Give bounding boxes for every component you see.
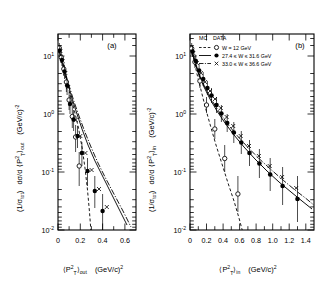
- panel-a: (a): [0, 0, 168, 299]
- legend-marker-open-circle: [214, 45, 218, 49]
- legend-marker-filled-circle: [214, 53, 218, 57]
- panel-a-label: (a): [107, 41, 117, 50]
- panel-a-ylabel: (1/σtot) dσ/d ⟨P2T⟩out (GeV/c)-2: [14, 104, 26, 212]
- svg-text:⟨P2T⟩out (GeV/c)2: ⟨P2T⟩out (GeV/c)2: [63, 264, 124, 276]
- legend-header-data: DATA: [213, 35, 227, 41]
- panel-b-yticklabels: 101 100 10-1 10-2: [173, 51, 186, 235]
- ytick-1em1: 10-1: [41, 167, 54, 177]
- figure-root: (a): [0, 0, 336, 299]
- svg-text:(1/σtot) dσ/d: (1/σtot) dσ/d ⟨P2T⟩out (GeV/c)-2: [14, 104, 26, 212]
- xtick-b-14: 1.4: [301, 236, 311, 245]
- xtick-a-06: 0.6: [120, 236, 130, 245]
- panel-b-xticklabels: 0 0.2 0.4 0.6 0.8 1.0 1.2 1.4: [188, 236, 311, 245]
- xtick-a-04: 0.4: [98, 236, 108, 245]
- ytick-b-1em2: 10-2: [173, 225, 186, 235]
- xtick-b-10: 1.0: [268, 236, 278, 245]
- panel-b-svg: (b) MC DATA W = 12 GeV 27.4 ≤ W ≤ 31.6 G…: [168, 0, 336, 299]
- panel-a-xlabel: ⟨P2T⟩out (GeV/c)2: [63, 264, 124, 276]
- legend-label-w12: W = 12 GeV: [222, 45, 251, 51]
- legend-label-w274: 27.4 ≤ W ≤ 31.6 GeV: [222, 53, 272, 59]
- panel-b-label: (b): [295, 41, 305, 50]
- ytick-1e0: 100: [43, 109, 54, 119]
- ytick-b-1em1: 10-1: [173, 167, 186, 177]
- panel-a-frame: [58, 34, 136, 230]
- legend-label-w330: 33.0 ≤ W ≤ 36.6 GeV: [222, 61, 272, 67]
- panel-a-svg: (a): [0, 0, 168, 299]
- ytick-1e1: 101: [43, 51, 54, 61]
- ytick-b-1e1: 101: [175, 51, 186, 61]
- xtick-b-02: 0.2: [202, 236, 212, 245]
- ytick-b-1e0: 100: [175, 109, 186, 119]
- xtick-b-04: 0.4: [218, 236, 228, 245]
- xtick-a-02: 0.2: [75, 236, 85, 245]
- xtick-b-12: 1.2: [284, 236, 294, 245]
- panel-a-yticklabels: 101 100 10-1 10-2: [41, 51, 54, 235]
- xtick-b-08: 0.8: [251, 236, 261, 245]
- ytick-1em2: 10-2: [41, 225, 54, 235]
- panel-b-xlabel: ⟨P2T⟩in (GeV/c)2: [219, 264, 276, 276]
- xtick-b-06: 0.6: [235, 236, 245, 245]
- panel-a-xticklabels: 0 0.2 0.4 0.6: [56, 236, 130, 245]
- xtick-a-0: 0: [56, 236, 60, 245]
- panel-b: (b) MC DATA W = 12 GeV 27.4 ≤ W ≤ 31.6 G…: [168, 0, 336, 299]
- svg-text:⟨P2T⟩in (GeV/c)2: ⟨P2T⟩in (GeV/c)2: [219, 264, 276, 276]
- xtick-b-0: 0: [188, 236, 192, 245]
